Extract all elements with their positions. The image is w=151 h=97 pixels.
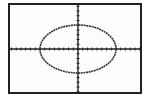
graph-plot xyxy=(10,5,140,92)
axes xyxy=(10,5,140,92)
calculator-screen xyxy=(8,3,142,94)
